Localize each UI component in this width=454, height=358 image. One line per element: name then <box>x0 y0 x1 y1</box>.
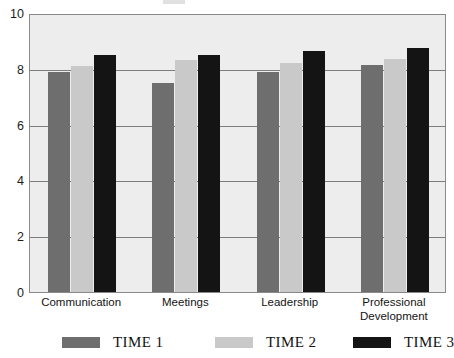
bar <box>152 83 174 292</box>
legend-swatch-icon <box>215 337 253 348</box>
chart-legend: TIME 1TIME 2TIME 3 <box>0 333 451 355</box>
bar <box>198 55 220 292</box>
legend-label: TIME 3 <box>404 334 454 351</box>
plot-area <box>29 14 446 293</box>
cropped-title-artifact <box>163 0 185 4</box>
y-tick-label-8: 8 <box>17 64 24 77</box>
y-axis: 0246810 <box>0 0 27 310</box>
x-axis-label-2: Leadership <box>261 295 318 309</box>
legend-item-time-1[interactable]: TIME 1 <box>62 333 163 351</box>
y-tick-label-2: 2 <box>17 231 24 244</box>
bar <box>71 66 93 292</box>
bar <box>303 51 325 292</box>
legend-swatch-icon <box>353 337 391 348</box>
bars-layer <box>30 15 445 292</box>
legend-item-time-2[interactable]: TIME 2 <box>215 333 316 351</box>
x-axis-label-0: Communication <box>41 295 121 309</box>
legend-item-time-3[interactable]: TIME 3 <box>353 333 454 351</box>
bar <box>175 60 197 292</box>
legend-label: TIME 1 <box>113 334 163 351</box>
legend-swatch-icon <box>62 337 100 348</box>
y-tick-label-4: 4 <box>17 175 24 188</box>
bar <box>94 55 116 292</box>
y-tick-label-10: 10 <box>10 8 24 21</box>
y-tick-label-6: 6 <box>17 119 24 132</box>
bar <box>407 48 429 292</box>
bar <box>257 72 279 292</box>
bar <box>48 72 70 292</box>
x-axis-category-labels: CommunicationMeetingsLeadershipProfessio… <box>29 295 446 331</box>
bar <box>384 59 406 292</box>
legend-label: TIME 2 <box>266 334 316 351</box>
bar <box>361 65 383 292</box>
bar <box>280 63 302 292</box>
x-axis-label-1: Meetings <box>162 295 209 309</box>
y-tick-label-0: 0 <box>17 287 24 300</box>
x-axis-label-3: Professional Development <box>360 295 428 323</box>
